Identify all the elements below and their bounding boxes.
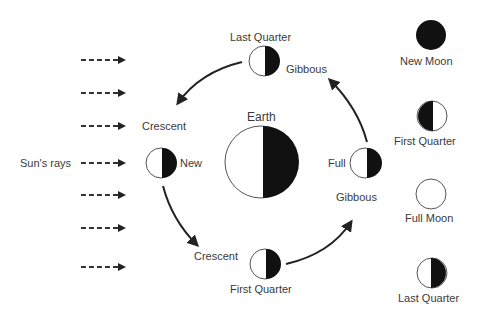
orbit-label-full: Full <box>328 157 346 169</box>
moon-full-position-icon <box>350 148 382 178</box>
orbit-label-last-quarter: Last Quarter <box>230 31 291 43</box>
orbit-arrow-icon <box>286 222 351 264</box>
sun-rays <box>81 60 124 267</box>
moon-last-quarter-position-icon <box>249 46 280 76</box>
earth-label: Earth <box>247 111 276 123</box>
legend-label-full-moon: Full Moon <box>405 212 453 224</box>
orbit-arrow-icon <box>163 186 197 245</box>
orbit-label-gibbous-top: Gibbous <box>286 63 327 75</box>
orbit-label-first-quarter: First Quarter <box>230 283 292 295</box>
legend-label-last-quarter: Last Quarter <box>398 292 459 304</box>
diagram-canvas <box>0 0 491 318</box>
legend-first-quarter-icon <box>417 101 447 131</box>
orbit-arrow-icon <box>330 80 367 142</box>
legend-full-moon-icon <box>416 179 446 209</box>
moon-new-position-icon <box>146 148 177 178</box>
moon-first-quarter-position-icon <box>250 249 281 279</box>
orbit-label-new: New <box>180 157 202 169</box>
legend-new-moon-icon <box>416 20 446 50</box>
orbit-label-crescent-upper: Crescent <box>142 120 186 132</box>
orbit-label-crescent-lower: Crescent <box>194 250 238 262</box>
sun-rays-label: Sun's rays <box>20 157 71 169</box>
orbit-arrow-icon <box>178 62 242 103</box>
earth-icon <box>225 126 299 198</box>
legend-label-first-quarter: First Quarter <box>394 135 456 147</box>
legend-label-new-moon: New Moon <box>400 55 453 67</box>
moon-phases-diagram: Sun's rays Earth Last Quarter Gibbous Cr… <box>0 0 491 318</box>
orbit-label-gibbous-bottom: Gibbous <box>336 191 377 203</box>
legend-last-quarter-icon <box>417 258 447 288</box>
